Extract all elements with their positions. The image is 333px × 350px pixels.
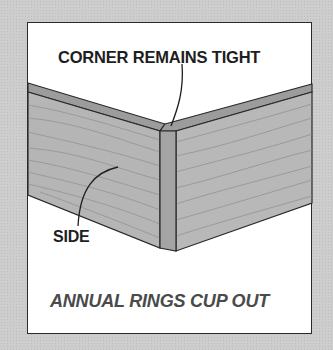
left-board <box>28 83 165 248</box>
right-board <box>160 84 312 251</box>
corner-end-grain <box>160 131 176 251</box>
corner-leader-line <box>171 64 182 126</box>
side-label: SIDE <box>53 228 90 246</box>
corner-label: CORNER REMAINS TIGHT <box>58 48 260 67</box>
caption: ANNUAL RINGS CUP OUT <box>50 291 269 312</box>
